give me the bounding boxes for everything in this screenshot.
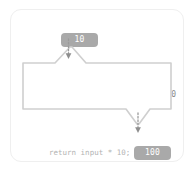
diagram-card: 10 함수 input x 10 return input * 10; 100 [10, 9, 184, 162]
input-value-badge[interactable]: 10 [61, 33, 98, 47]
function-expression-label: input x 10 [128, 91, 176, 99]
diagram-screenshot: 10 함수 input x 10 return input * 10; 100 [0, 0, 194, 171]
function-box-label: 함수 [48, 91, 64, 100]
output-value-badge[interactable]: 100 [134, 146, 171, 160]
return-statement-code: return input * 10; [49, 149, 130, 157]
